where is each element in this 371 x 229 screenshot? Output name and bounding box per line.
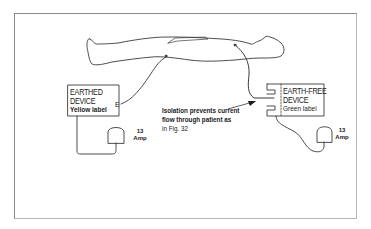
earthed-plug-rating-value: 13: [132, 128, 148, 135]
earthed-device-label: Yellow label: [70, 107, 107, 114]
earth-free-plug-rating-value: 13: [334, 127, 350, 134]
earthed-plug-rating: 13 Amp: [132, 128, 148, 141]
annotation-line-2: flow through patient as: [162, 117, 231, 123]
earth-terminal-label: E: [115, 101, 120, 108]
earthed-plug: [108, 128, 124, 144]
earth-free-device-label: Green label: [283, 106, 317, 113]
earthed-plug-rating-unit: Amp: [132, 135, 148, 142]
diagram-drawing: [0, 0, 371, 229]
earthed-lead: [121, 57, 166, 104]
earth-free-plug: [317, 127, 332, 142]
annotation-line-3: in Fig. 32: [162, 126, 188, 132]
earthed-power-cable: [77, 116, 116, 154]
diagram-canvas: EARTHED DEVICE Yellow label E 13 Amp EAR…: [0, 0, 371, 229]
earth-free-device-title-2: DEVICE: [283, 96, 308, 105]
earth-free-plug-rating-unit: Amp: [334, 134, 350, 141]
earth-free-plug-rating: 13 Amp: [334, 127, 350, 140]
earthed-device-title-2: DEVICE: [70, 97, 95, 106]
annotation-line-1: Isolation prevents current: [162, 108, 239, 114]
